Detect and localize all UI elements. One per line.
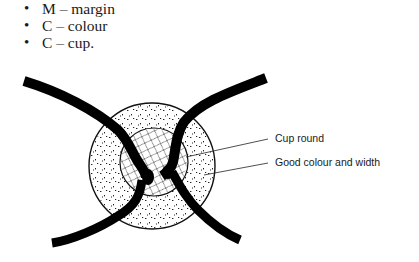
optic-disc-diagram	[0, 0, 419, 262]
label-cup-round: Cup round	[275, 132, 324, 144]
label-good-colour-width: Good colour and width	[275, 156, 380, 168]
